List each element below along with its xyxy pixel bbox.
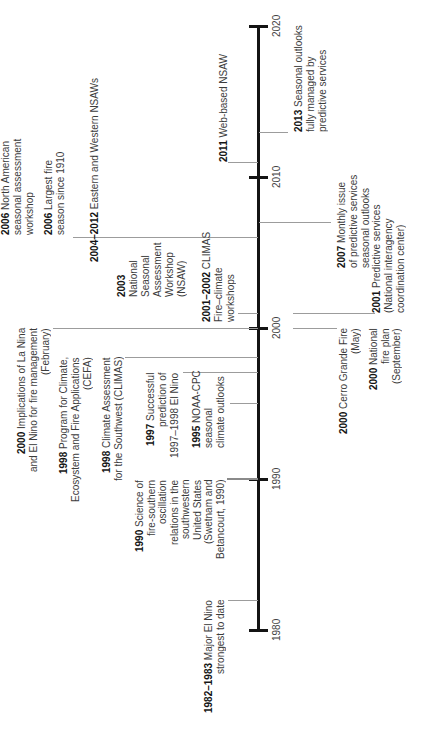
- event-text: Fire–climate: [213, 268, 224, 322]
- event-text: relations in the: [169, 480, 180, 545]
- event-text: Major El Nino: [203, 600, 214, 660]
- event-year: 2013: [293, 110, 304, 132]
- event-2006-largest-fire-season: 2006Largest fire season since 1910: [43, 135, 73, 235]
- event-text: for the Southwest (CLIMAS): [113, 357, 124, 482]
- event-text: season since 1910: [55, 152, 66, 235]
- event-text: (Swetnam and: [203, 480, 214, 544]
- event-text: Assessment: [152, 243, 163, 297]
- event-year: 2006: [43, 213, 54, 235]
- event-year: 1990: [134, 530, 145, 552]
- event-text: (NSAW): [176, 261, 187, 297]
- event-text: Betancourt, 1990): [215, 480, 226, 560]
- connector-line-2000-implications: [53, 328, 258, 329]
- event-text: (February): [40, 328, 51, 375]
- event-year: 1982–1983: [203, 663, 214, 713]
- event-text: CLIMAS: [201, 232, 212, 269]
- axis-label-2020: 2020: [271, 6, 283, 46]
- axis-tick-2010: [249, 176, 268, 179]
- event-1998-cefa: 1998Program for Climate, Ecosystem and F…: [58, 357, 96, 527]
- event-text: 1997–1998 El Nino: [169, 373, 180, 458]
- connector-line-1998: [125, 357, 258, 358]
- event-text: NOAA-CPC: [191, 370, 202, 423]
- connector-line-1995: [230, 403, 258, 404]
- connector-line-2001: [293, 313, 375, 314]
- event-year: 1997: [145, 424, 156, 446]
- event-year: 2000: [16, 432, 27, 454]
- event-text: Workshop: [164, 252, 175, 297]
- event-text: Web-based NSAW: [218, 54, 229, 137]
- event-text: United States: [192, 480, 203, 540]
- event-2000-cerro-grande-fire: 2000Cerro Grande Fire (May): [338, 328, 364, 458]
- event-year: 2003: [116, 275, 127, 297]
- event-text: climate outlooks: [215, 376, 226, 448]
- axis-label-1980: 1980: [271, 610, 283, 650]
- event-year: 1998: [58, 452, 69, 474]
- event-text: and El Nino for fire management: [28, 328, 39, 472]
- event-text: workshops: [225, 274, 236, 322]
- event-text: Largest fire: [43, 160, 54, 210]
- event-text: southwestern: [180, 480, 191, 539]
- event-text: seasonal: [203, 408, 214, 448]
- connector-line-1990: [227, 478, 258, 480]
- event-text: (May): [350, 328, 361, 354]
- connector-line-2013: [259, 132, 288, 133]
- event-text: of predictive services: [348, 175, 359, 268]
- event-2003-nsaw: 2003 National Seasonal Assessment Worksh…: [116, 225, 191, 297]
- event-1995-noaa-cpc-outlooks: 1995NOAA-CPC seasonal climate outlooks: [191, 368, 229, 448]
- event-text: oscillation: [157, 480, 168, 524]
- connector-line-2001-2002: [238, 313, 258, 314]
- event-text: (September): [391, 328, 402, 384]
- event-text: Eastern and Western NSAWs: [89, 78, 100, 209]
- event-text: Science of: [134, 480, 145, 527]
- event-text: fire-southern: [146, 480, 157, 536]
- event-year: 1995: [191, 426, 202, 448]
- event-text: Monthly issue: [336, 182, 347, 243]
- event-year: 2011: [218, 140, 229, 162]
- event-text: prediction of: [157, 373, 168, 427]
- timeline-diagram: 1980 1990 2000 2010 2020 2006North Ameri…: [0, 0, 424, 730]
- event-1990-fire-southern-oscillation: 1990Science of fire-southern oscillation…: [134, 480, 230, 580]
- event-text: Seasonal: [140, 255, 151, 297]
- event-year: 2001: [371, 291, 382, 313]
- event-year: 2006: [0, 213, 11, 235]
- event-1997-el-nino-prediction: 1997Successful prediction of 1997–1998 E…: [145, 373, 183, 473]
- event-2000-national-fire-plan: 2000National fire plan (September): [368, 328, 406, 408]
- event-text: workshop: [24, 192, 35, 235]
- axis-tick-1980: [249, 629, 268, 632]
- event-year: 2001–2002: [201, 272, 212, 322]
- axis-tick-2020: [249, 25, 268, 28]
- event-year: 2000: [368, 368, 379, 390]
- event-text: (CEFA): [82, 357, 93, 390]
- event-2001-predictive-services: 2001Predictive services (National intera…: [371, 183, 409, 313]
- event-text: Cerro Grande Fire: [338, 328, 349, 409]
- connector-line-2011: [228, 162, 258, 163]
- event-2007-monthly-issue: 2007Monthly issue of predictive services…: [336, 148, 374, 268]
- event-1998-climas: 1998Climate Assessment for the Southwest…: [101, 357, 127, 507]
- event-text: Ecosystem and Fire Applications: [70, 357, 81, 502]
- event-text: Climate Assessment: [101, 357, 112, 448]
- event-text: Implications of La Nina: [16, 328, 27, 429]
- event-2011-web-based-nsaw: 2011Web-based NSAW: [218, 52, 232, 162]
- event-1982-1983-major-el-nino: 1982–1983Major El Nino strongest to date: [203, 600, 229, 725]
- axis-label-1990: 1990: [271, 459, 283, 499]
- event-2001-2002-climas-workshops: 2001–2002CLIMAS Fire–climate workshops: [201, 220, 239, 322]
- event-text: fire plan: [380, 328, 391, 364]
- event-text: Program for Climate,: [58, 357, 69, 449]
- event-2004-2012-nsaws: 2004–2012Eastern and Western NSAWs: [89, 62, 103, 262]
- event-text: strongest to date: [215, 600, 226, 675]
- event-2013-seasonal-outlooks: 2013Seasonal outlooks fully managed by p…: [293, 7, 331, 132]
- event-text: Predictive services: [371, 205, 382, 288]
- axis-label-2010: 2010: [271, 157, 283, 197]
- event-year: 2004–2012: [89, 212, 100, 262]
- connector-line-2000-fire: [293, 328, 337, 329]
- event-text: North American: [0, 141, 11, 210]
- connector-line-1982: [228, 600, 258, 601]
- event-text: Seasonal outlooks: [293, 25, 304, 107]
- event-2000-la-nina-implications: 2000Implications of La Nina and El Nino …: [16, 328, 54, 498]
- event-text: predictive services: [317, 50, 328, 132]
- event-text: National: [368, 328, 379, 365]
- event-text: coordination center): [395, 225, 406, 313]
- axis-label-2000: 2000: [271, 308, 283, 348]
- event-year: 2007: [336, 246, 347, 268]
- event-2006-north-american-workshop: 2006North American seasonal assessment w…: [0, 105, 40, 235]
